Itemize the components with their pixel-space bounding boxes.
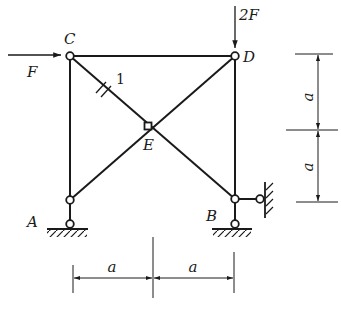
node-B-wall-pin — [256, 195, 264, 203]
dim-horizontal-label-2: a — [189, 258, 198, 276]
label-E: E — [142, 136, 154, 154]
truss-diagram: 1 C D E A B F 2F a a — [0, 0, 341, 333]
load-label-2F: 2F — [238, 6, 260, 24]
ground-support-B — [212, 229, 252, 237]
node-D — [231, 52, 239, 60]
node-A-joint — [66, 196, 74, 204]
node-E — [145, 123, 152, 130]
node-A-pin — [66, 220, 74, 228]
label-D: D — [242, 48, 255, 66]
dim-vertical-label-1: a — [299, 93, 317, 102]
load-label-F: F — [26, 63, 38, 81]
label-A: A — [25, 213, 38, 231]
dim-horizontal-label-1: a — [108, 258, 117, 276]
node-B-joint — [231, 195, 239, 203]
ground-support-A — [47, 229, 88, 237]
member-1-label: 1 — [116, 71, 125, 87]
horizontal-dimension — [73, 237, 234, 298]
node-C — [66, 52, 74, 60]
vertical-dimension — [286, 54, 338, 202]
dim-vertical-label-2: a — [299, 163, 317, 172]
node-B-pin — [231, 220, 239, 228]
label-B: B — [205, 207, 217, 225]
label-C: C — [64, 30, 76, 48]
wall-support-B — [265, 182, 273, 218]
